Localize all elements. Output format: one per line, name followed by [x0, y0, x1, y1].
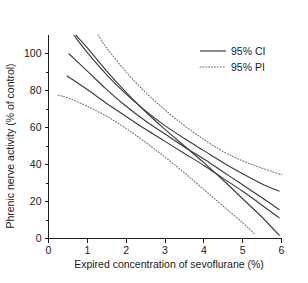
- series-curve: [58, 95, 254, 234]
- series-curve: [74, 35, 280, 191]
- chart-axis-labels: Expired concentration of sevoflurane (%)…: [4, 63, 264, 270]
- legend-label: 95% CI: [231, 45, 265, 57]
- x-axis-title: Expired concentration of sevoflurane (%): [74, 258, 264, 270]
- chart-figure: 0123456020406080100 Expired concentratio…: [0, 0, 308, 283]
- y-tick-label: 100: [24, 47, 42, 59]
- x-tick-label: 4: [201, 244, 207, 256]
- chart-legend: 95% CI95% PI: [200, 45, 265, 73]
- chart-canvas: 0123456020406080100 Expired concentratio…: [0, 0, 308, 283]
- y-tick-label: 0: [36, 232, 42, 244]
- y-axis-title: Phrenic nerve activity (% of control): [4, 63, 16, 228]
- x-tick-label: 2: [123, 244, 129, 256]
- x-tick-label: 6: [279, 244, 285, 256]
- series-curve: [67, 76, 280, 218]
- legend-label: 95% PI: [231, 61, 265, 73]
- x-tick-label: 1: [84, 244, 90, 256]
- y-tick-label: 20: [30, 195, 42, 207]
- y-tick-label: 40: [30, 158, 42, 170]
- y-tick-label: 60: [30, 121, 42, 133]
- x-tick-label: 0: [46, 244, 52, 256]
- x-tick-label: 5: [240, 244, 246, 256]
- x-tick-label: 3: [162, 244, 168, 256]
- y-tick-label: 80: [30, 84, 42, 96]
